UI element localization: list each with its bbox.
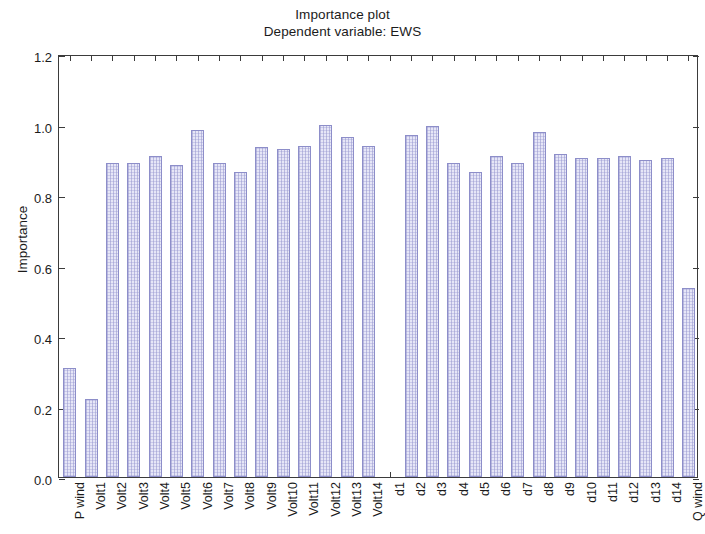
bar	[85, 399, 98, 477]
bar	[319, 125, 332, 478]
bar	[362, 146, 375, 477]
x-axis-category-label: d5	[479, 482, 492, 496]
x-axis-category-label: Volt2	[116, 482, 129, 510]
bar	[106, 163, 119, 477]
x-axis-category-label: Volt1	[95, 482, 108, 510]
chart-title-block: Importance plot Dependent variable: EWS	[0, 6, 685, 40]
x-axis-category-labels: P windVolt1Volt2Volt3Volt4Volt5Volt6Volt…	[58, 482, 698, 534]
y-axis-tick-label: 0.2	[34, 402, 52, 417]
x-axis-category-label: d1	[394, 482, 407, 496]
x-axis-category-label: d4	[458, 482, 471, 496]
bar	[661, 158, 674, 477]
x-axis-category-label: Volt7	[223, 482, 236, 510]
chart-title: Importance plot	[0, 6, 685, 23]
bar	[469, 172, 482, 477]
x-axis-category-label: d8	[543, 482, 556, 496]
x-axis-category-label: Volt13	[351, 482, 364, 517]
x-axis-category-label: d12	[628, 482, 641, 503]
x-axis-category-label: Volt6	[202, 482, 215, 510]
y-axis-tick: 0.0	[59, 479, 65, 480]
x-axis-category-label: Volt4	[159, 482, 172, 510]
y-axis-label: Importance	[15, 180, 30, 300]
x-axis-category-label: Volt11	[308, 482, 321, 516]
bar	[575, 158, 588, 477]
bar	[490, 156, 503, 477]
bar	[255, 147, 268, 477]
y-axis-tick-label: 1.0	[34, 120, 52, 135]
x-axis-category-label: d14	[671, 482, 684, 503]
x-axis-category-label: Volt10	[287, 482, 300, 517]
y-axis-tick-label: 0.6	[34, 261, 52, 276]
bar	[191, 130, 204, 477]
y-axis-tick-label: 0.8	[34, 191, 52, 206]
bar	[298, 146, 311, 477]
x-axis-category-label: d13	[650, 482, 663, 503]
x-axis-category-label: Volt12	[330, 482, 343, 517]
x-axis-category-label: d7	[522, 482, 535, 496]
bar	[682, 288, 695, 477]
bar	[63, 368, 76, 477]
x-axis-category-label: Volt8	[244, 482, 257, 510]
bar	[341, 137, 354, 477]
y-axis-tick-label: 0.4	[34, 332, 52, 347]
y-axis-tick-right	[693, 479, 699, 480]
bar	[597, 158, 610, 477]
bar	[149, 156, 162, 477]
x-axis-category-label: d3	[436, 482, 449, 496]
plot-area: 0.00.20.40.60.81.01.2	[58, 55, 698, 478]
bar	[426, 126, 439, 477]
y-axis-tick-label: 0.0	[34, 473, 52, 488]
bar	[127, 163, 140, 477]
bar	[639, 160, 652, 477]
x-axis-category-label: d11	[607, 482, 620, 502]
bar	[618, 156, 631, 477]
x-axis-category-label: P wind	[74, 482, 87, 519]
x-axis-category-label: Q wind	[692, 482, 705, 521]
x-axis-category-label: Volt14	[372, 482, 385, 517]
bar	[533, 132, 546, 477]
x-axis-category-label: d2	[415, 482, 428, 496]
y-axis-tick-label: 1.2	[34, 50, 52, 65]
bar	[511, 163, 524, 477]
x-axis-category-label: d10	[586, 482, 599, 503]
x-axis-category-label: Volt9	[266, 482, 279, 510]
chart-subtitle: Dependent variable: EWS	[0, 23, 685, 40]
bar	[447, 163, 460, 477]
bar	[170, 165, 183, 477]
bar	[554, 154, 567, 477]
x-axis-category-label: Volt5	[180, 482, 193, 510]
bar	[277, 149, 290, 477]
bar	[213, 163, 226, 477]
bar	[405, 135, 418, 477]
x-axis-category-label: d6	[500, 482, 513, 496]
x-axis-category-label: Volt3	[138, 482, 151, 510]
bar	[234, 172, 247, 477]
x-axis-category-label: d9	[564, 482, 577, 496]
bars-layer	[59, 56, 697, 477]
